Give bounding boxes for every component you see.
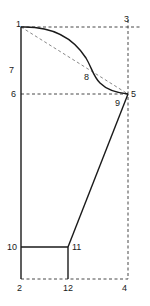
label-point-9: 9 [115,98,120,108]
label-point-8: 8 [84,72,89,82]
dashed-line-1-5 [21,27,128,94]
label-point-2: 2 [17,283,22,293]
solid-line-5-11 [68,94,128,247]
label-point-6: 6 [11,89,16,99]
label-point-3: 3 [124,14,129,24]
label-point-10: 10 [7,242,17,252]
label-point-7: 7 [9,65,14,75]
label-point-1: 1 [16,19,21,29]
label-point-12: 12 [63,283,73,293]
label-point-5: 5 [131,89,136,99]
pattern-diagram: 1 3 7 8 6 5 9 10 11 2 12 4 [0,0,150,306]
label-point-4: 4 [122,283,127,293]
label-point-11: 11 [72,242,81,252]
